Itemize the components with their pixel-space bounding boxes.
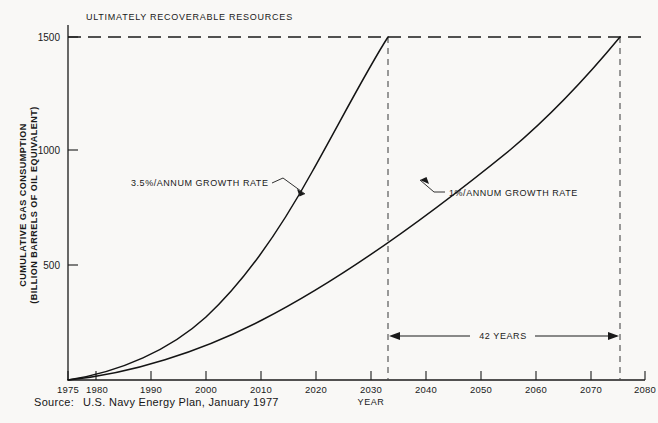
annotation-42-years: 42 YEARS <box>389 331 619 341</box>
annotation-3-5-percent-label: 3.5%/ANNUM GROWTH RATE <box>131 178 268 188</box>
x-tick-labels: 1975 1980 1990 2000 2010 2020 2030 2040 … <box>57 384 656 395</box>
cropped-figure-caption <box>196 411 496 423</box>
x-tick-label-2050: 2050 <box>470 384 492 395</box>
source-prefix: Source: <box>34 396 74 408</box>
ultimately-recoverable-resources-label: ULTIMATELY RECOVERABLE RESOURCES <box>86 12 293 22</box>
span-label-42-years: 42 YEARS <box>479 331 527 341</box>
chart-figure: 500 1000 1500 1975 1980 1990 2000 2010 <box>0 0 658 423</box>
x-tick-label-1980: 1980 <box>86 384 108 395</box>
source-text: U.S. Navy Energy Plan, January 1977 <box>83 396 279 408</box>
chart-canvas: 500 1000 1500 1975 1980 1990 2000 2010 <box>0 0 658 423</box>
annotation-1-percent: 1%/ANNUM GROWTH RATE <box>420 177 578 198</box>
annotation-1-percent-leader <box>420 180 445 192</box>
x-ticks-group <box>68 371 645 380</box>
curve-1-percent-growth <box>68 37 620 380</box>
source-caption: Source: U.S. Navy Energy Plan, January 1… <box>34 396 279 408</box>
annotation-1-percent-label: 1%/ANNUM GROWTH RATE <box>449 188 578 198</box>
x-tick-label-2010: 2010 <box>250 384 272 395</box>
x-tick-label-2030: 2030 <box>360 384 382 395</box>
y-axis-title-line1: CUMULATIVE GAS CONSUMPTION <box>18 123 28 286</box>
x-tick-label-2000: 2000 <box>195 384 217 395</box>
x-tick-label-1975: 1975 <box>57 384 79 395</box>
axes-group <box>68 25 645 380</box>
x-tick-label-2020: 2020 <box>305 384 327 395</box>
annotation-1-percent-arrowhead <box>420 177 429 184</box>
y-axis-title: CUMULATIVE GAS CONSUMPTION (BILLION BARR… <box>18 106 39 304</box>
y-axis-title-line2: (BILLION BARRELS OF OIL EQUIVALENT) <box>29 106 39 304</box>
x-tick-label-2080: 2080 <box>634 384 656 395</box>
y-tick-labels: 500 1000 1500 <box>38 32 61 271</box>
span-arrowhead-left <box>389 332 400 340</box>
curve-3-5-percent-growth <box>68 37 388 380</box>
annotation-3-5-percent: 3.5%/ANNUM GROWTH RATE <box>131 178 305 197</box>
x-tick-label-2070: 2070 <box>580 384 602 395</box>
x-tick-label-2060: 2060 <box>525 384 547 395</box>
x-tick-label-1990: 1990 <box>140 384 162 395</box>
x-tick-label-2040: 2040 <box>415 384 437 395</box>
y-tick-label-500: 500 <box>43 260 60 271</box>
y-tick-label-1500: 1500 <box>38 32 61 43</box>
y-tick-label-1000: 1000 <box>38 145 61 156</box>
x-axis-title: YEAR <box>358 397 385 407</box>
span-arrowhead-right <box>608 332 619 340</box>
y-ticks-group <box>68 37 78 265</box>
